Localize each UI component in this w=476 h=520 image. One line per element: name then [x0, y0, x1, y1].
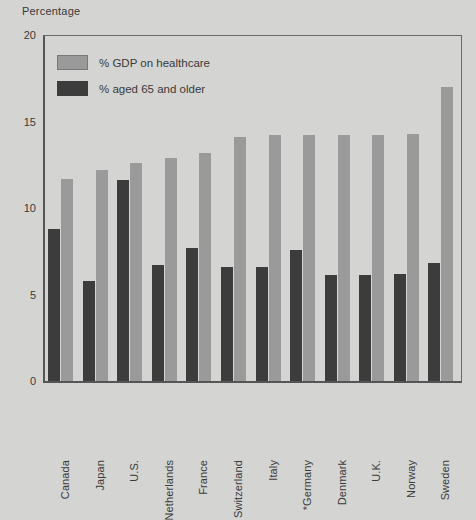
bar-gdp-on-healthcare	[269, 135, 281, 381]
bar-gdp-on-healthcare	[234, 137, 246, 381]
bar-gdp-on-healthcare	[130, 163, 142, 381]
bar-aged-65-and-older	[117, 180, 129, 381]
bar-gdp-on-healthcare	[407, 134, 419, 381]
bar-gdp-on-healthcare	[372, 135, 384, 381]
bar-group	[325, 35, 360, 381]
legend-label: % GDP on healthcare	[99, 57, 210, 69]
bar-aged-65-and-older	[428, 263, 440, 381]
y-axis-tick: 15	[24, 116, 36, 128]
x-axis-label: Japan	[94, 460, 106, 490]
y-axis-tick: 0	[30, 375, 36, 387]
bar-group	[359, 35, 394, 381]
bar-gdp-on-healthcare	[199, 153, 211, 381]
bar-aged-65-and-older	[394, 274, 406, 381]
x-axis-label: Switzerland	[232, 460, 244, 518]
x-axis-label: France	[197, 460, 209, 495]
bar-aged-65-and-older	[359, 275, 371, 381]
bar-gdp-on-healthcare	[61, 179, 73, 381]
x-axis-labels: CanadaJapanU.S.NetherlandsFranceSwitzerl…	[45, 386, 460, 463]
x-axis-label: Sweden	[439, 460, 451, 500]
chart-legend: % GDP on healthcare% aged 65 and older	[57, 53, 210, 105]
bar-group	[290, 35, 325, 381]
x-axis-label: Italy	[267, 460, 279, 481]
bar-aged-65-and-older	[48, 229, 60, 381]
bar-gdp-on-healthcare	[96, 170, 108, 381]
x-axis-label: Denmark	[336, 460, 348, 505]
bar-group	[221, 35, 256, 381]
bar-group	[394, 35, 429, 381]
bar-aged-65-and-older	[221, 267, 233, 381]
legend-item: % GDP on healthcare	[57, 53, 210, 72]
x-axis-label: Norway	[405, 460, 417, 498]
bar-aged-65-and-older	[290, 250, 302, 381]
y-axis-tick: 5	[30, 289, 36, 301]
y-axis-tick: 10	[24, 202, 36, 214]
bar-gdp-on-healthcare	[441, 87, 453, 381]
bar-aged-65-and-older	[152, 265, 164, 381]
legend-swatch-light	[57, 55, 88, 70]
legend-swatch-dark	[57, 81, 88, 96]
legend-item: % aged 65 and older	[57, 79, 210, 98]
bar-aged-65-and-older	[325, 275, 337, 381]
x-axis-label: Canada	[59, 460, 71, 499]
bar-gdp-on-healthcare	[338, 135, 350, 381]
y-axis-tick: 20	[24, 29, 36, 41]
bar-group	[256, 35, 291, 381]
bar-aged-65-and-older	[256, 267, 268, 381]
x-axis-label: *Germany	[301, 460, 313, 510]
bar-gdp-on-healthcare	[303, 135, 315, 381]
x-axis-label: U.K.	[370, 460, 382, 482]
legend-label: % aged 65 and older	[99, 83, 205, 95]
x-axis-label: U.S.	[128, 460, 140, 482]
bar-group	[428, 35, 463, 381]
bar-gdp-on-healthcare	[165, 158, 177, 381]
bar-aged-65-and-older	[186, 248, 198, 381]
y-axis-ticks: 05101520	[0, 0, 43, 463]
x-axis-label: Netherlands	[163, 460, 175, 520]
bar-aged-65-and-older	[83, 281, 95, 381]
